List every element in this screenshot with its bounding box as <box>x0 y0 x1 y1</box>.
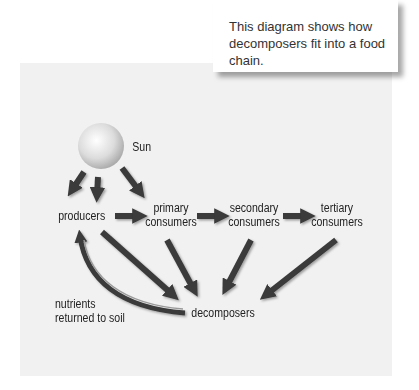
nutrients-returned-label: nutrients returned to soil <box>55 297 125 325</box>
caption-callout: This diagram shows how decomposers fit i… <box>213 0 398 72</box>
tertiary-consumers-label: tertiary consumers <box>310 201 365 229</box>
sun-icon <box>78 123 124 169</box>
caption-text: This diagram shows how decomposers fit i… <box>229 18 394 69</box>
secondary-consumers-label: secondary consumers <box>226 201 282 229</box>
sun-label: Sun <box>132 140 151 154</box>
primary-consumers-label: primary consumers <box>144 201 199 229</box>
decomposers-label: decomposers <box>191 306 254 320</box>
producers-label: producers <box>58 209 105 223</box>
